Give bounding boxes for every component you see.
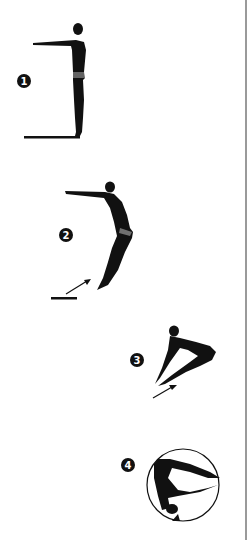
arrow-step-3	[153, 387, 172, 398]
step-3-badge: 3	[130, 353, 144, 367]
figure-step-4	[154, 459, 220, 514]
step-1-badge: 1	[17, 74, 31, 88]
step-2-badge: 2	[59, 228, 73, 242]
svg-text:2: 2	[63, 230, 70, 241]
arrow-step-2	[66, 281, 87, 294]
svg-text:1: 1	[21, 76, 28, 87]
dive-sequence-illustration: 1 2 3 4	[0, 0, 251, 540]
svg-text:3: 3	[134, 355, 141, 366]
figure-step-1	[24, 23, 86, 139]
step-4-badge: 4	[121, 458, 135, 472]
rotation-arrowhead	[172, 514, 180, 521]
figure-step-3	[155, 326, 216, 387]
svg-text:4: 4	[125, 460, 132, 471]
